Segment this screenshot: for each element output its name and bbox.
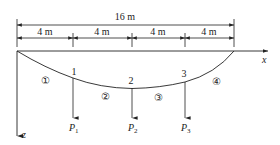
node-3-label: 3 bbox=[182, 68, 187, 79]
z-axis-label: z bbox=[21, 129, 26, 140]
segment-3-length-label: 4 m bbox=[150, 26, 166, 37]
load-p3-label: P3 bbox=[180, 122, 191, 135]
cable-segment-4-label: ④ bbox=[212, 76, 221, 87]
node-1-label: 1 bbox=[72, 66, 77, 77]
segment-2-length-label: 4 m bbox=[94, 26, 110, 37]
x-axis-label: x bbox=[261, 54, 267, 65]
cable-diagram: 16 m 4 m 4 m 4 m 4 m x z 1 2 3 ① ② ③ ④ P… bbox=[0, 0, 280, 145]
segment-1-length-label: 4 m bbox=[37, 26, 53, 37]
cable-segment-3-label: ③ bbox=[154, 92, 163, 103]
total-span-label: 16 m bbox=[115, 11, 136, 22]
load-p2-label: P2 bbox=[127, 122, 138, 135]
cable-segment-1-label: ① bbox=[41, 75, 50, 86]
cable-segment-2-label: ② bbox=[101, 91, 110, 102]
segment-4-length-label: 4 m bbox=[201, 26, 217, 37]
load-p1-label: P1 bbox=[68, 122, 79, 135]
cable-curve bbox=[17, 51, 234, 89]
node-2-label: 2 bbox=[129, 75, 134, 86]
